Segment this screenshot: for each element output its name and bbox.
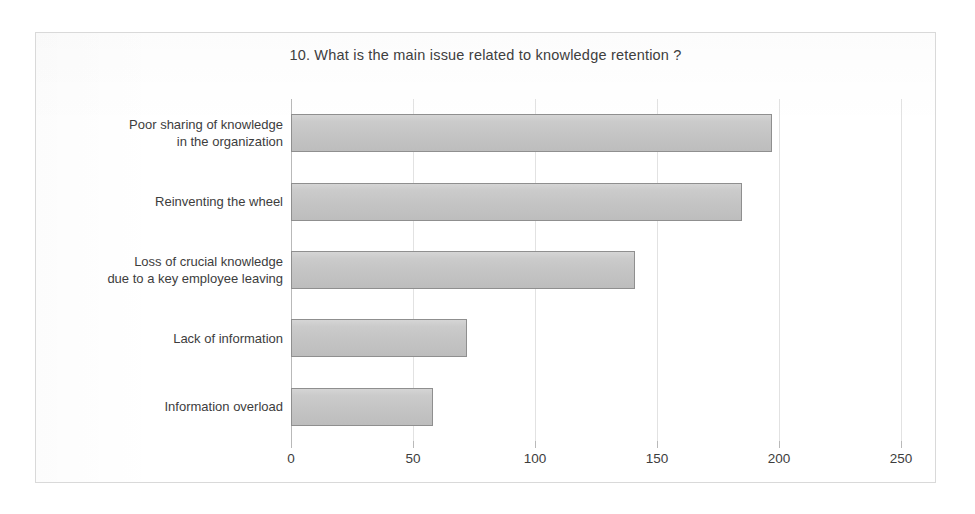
bar[interactable] (291, 183, 742, 221)
tick-mark-250 (901, 441, 902, 448)
bar[interactable] (291, 319, 467, 357)
category-label: Reinventing the wheel (71, 167, 283, 235)
bar-row (291, 99, 901, 167)
bar-row (291, 167, 901, 235)
tick-mark-100 (535, 441, 536, 448)
category-label-line: Loss of crucial knowledge (107, 253, 283, 270)
tick-label-50: 50 (405, 451, 420, 466)
category-label: Poor sharing of knowledgein the organiza… (71, 99, 283, 167)
category-label-line: in the organization (129, 133, 283, 150)
chart-title: 10. What is the main issue related to kn… (36, 47, 935, 63)
bar[interactable] (291, 388, 433, 426)
category-label-line: due to a key employee leaving (107, 270, 283, 287)
category-label: Lack of information (71, 304, 283, 372)
gridline-250 (901, 99, 902, 441)
bar[interactable] (291, 251, 635, 289)
chart-frame: 10. What is the main issue related to kn… (35, 32, 936, 483)
category-label-line: Reinventing the wheel (155, 193, 283, 210)
tick-mark-150 (657, 441, 658, 448)
category-label-line: Information overload (164, 398, 283, 415)
tick-mark-50 (413, 441, 414, 448)
bar-row (291, 304, 901, 372)
tick-label-150: 150 (646, 451, 669, 466)
plot-area (291, 99, 901, 441)
category-axis-labels: Poor sharing of knowledgein the organiza… (71, 99, 283, 441)
bar-row (291, 373, 901, 441)
category-label-line: Poor sharing of knowledge (129, 116, 283, 133)
category-label-line: Lack of information (173, 330, 283, 347)
tick-label-200: 200 (768, 451, 791, 466)
bar-row (291, 236, 901, 304)
value-axis-ticks (291, 441, 901, 449)
tick-label-250: 250 (890, 451, 913, 466)
bar[interactable] (291, 114, 772, 152)
tick-mark-200 (779, 441, 780, 448)
category-label: Loss of crucial knowledgedue to a key em… (71, 236, 283, 304)
category-label: Information overload (71, 373, 283, 441)
tick-label-100: 100 (524, 451, 547, 466)
value-axis-labels: 050100150200250 (291, 451, 901, 475)
tick-label-0: 0 (287, 451, 295, 466)
tick-mark-0 (291, 441, 292, 448)
